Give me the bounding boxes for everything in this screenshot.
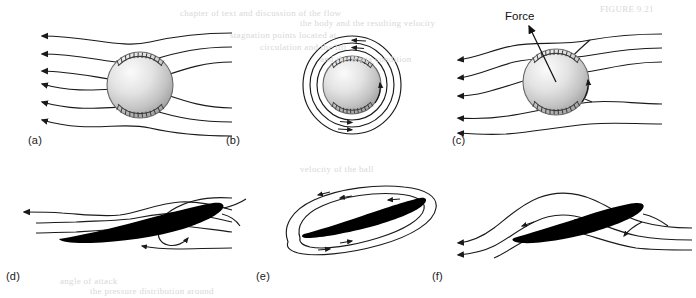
panel-b-baseball (323, 56, 381, 114)
panel-label-a: (a) (28, 134, 42, 146)
panel-e-circulation-airfoil (286, 186, 436, 255)
panel-e-airfoil (302, 198, 426, 238)
panel-label-b: (b) (226, 134, 240, 146)
panel-d-uniform-flow-airfoil (24, 198, 246, 250)
panel-c-superposition-baseball (458, 26, 662, 134)
panel-a-uniform-flow-baseball (42, 33, 232, 136)
panel-a-baseball (107, 52, 173, 118)
panel-d-outer-streamlines (222, 199, 246, 226)
panel-d-airfoil (59, 203, 224, 243)
panel-d-streamlines (24, 198, 232, 250)
panel-b-circulation-baseball (303, 36, 401, 134)
panel-label-e: (e) (256, 270, 270, 282)
panel-label-c: (c) (452, 134, 465, 146)
figure-root: FIGURE 9.21 chapter of text and discussi… (0, 0, 696, 298)
panel-label-f: (f) (432, 270, 443, 282)
panel-f-superposition-airfoil (458, 193, 692, 258)
force-annotation-label: Force (505, 10, 534, 22)
panel-label-d: (d) (6, 270, 20, 282)
panel-f-extra-streamlines (643, 214, 668, 226)
fluid-flow-diagram (0, 0, 696, 298)
